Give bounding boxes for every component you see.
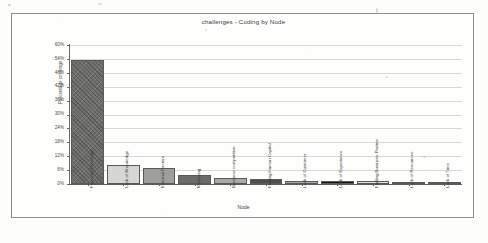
x-category-label: Finding Human Capital [268,143,272,188]
y-tick-mark [67,73,69,74]
y-tick-mark [67,184,69,185]
scan-speck [376,8,378,13]
y-tick-mark [67,128,69,129]
scan-speck [205,29,207,31]
x-category-label: Finding Business Partner [375,139,379,188]
x-category-label: Financial Challenge [90,149,94,188]
chart-frame: challenges - Coding by Node Percentage c… [11,13,474,218]
x-category-label: Business competition [232,147,236,189]
x-category-label: Lack of Resources [410,152,414,188]
y-tick-label: 54% [38,57,64,62]
x-category-label: Lack of Customer [303,154,307,188]
scan-speck [423,156,426,158]
y-tick-label: 36% [38,98,64,103]
y-tick-label: 0% [38,182,64,187]
y-tick-mark [67,87,69,88]
x-category-label: Lack of Knowledge [125,151,129,188]
y-tick-mark [67,59,69,60]
x-axis-title: Node [12,204,475,210]
bar [71,60,104,184]
y-tick-label: 6% [38,168,64,173]
x-category-label: Lack of Time [446,163,450,188]
y-tick-label: 60% [38,43,64,48]
y-tick-mark [67,156,69,157]
figure-page: challenges - Coding by Node Percentage c… [0,0,488,243]
x-category-label: External Factors [161,156,165,188]
y-tick-label: 18% [38,140,64,145]
y-tick-label: 30% [38,112,64,117]
y-tick-label: 48% [38,71,64,76]
scan-speck [98,3,102,5]
y-tick-mark [67,45,69,46]
scan-speck [8,4,11,6]
y-tick-label: 24% [38,126,64,131]
y-tick-mark [67,115,69,116]
y-tick-label: 42% [38,84,64,89]
x-category-label: Marketing [197,169,201,188]
bar [178,175,211,184]
scan-speck [385,76,388,78]
chart-title: challenges - Coding by Node [12,18,475,25]
y-tick-mark [67,170,69,171]
y-tick-label: 12% [38,154,64,159]
x-category-label: Lack of Experience [339,151,343,188]
y-tick-mark [67,142,69,143]
y-tick-mark [67,101,69,102]
